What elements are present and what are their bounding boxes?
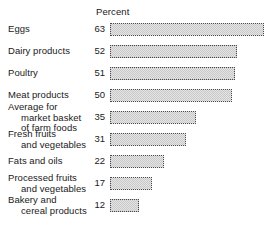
bar-value-label: 35 bbox=[78, 112, 105, 123]
category-label: Processed fruitsand vegetables bbox=[8, 173, 86, 194]
category-label-line: Eggs bbox=[8, 24, 30, 35]
category-label-line: cereal products bbox=[8, 206, 87, 217]
category-label: Eggs bbox=[8, 24, 30, 35]
category-label-line: Bakery and bbox=[8, 195, 87, 206]
bar-row: Fresh fruitsand vegetables31 bbox=[0, 131, 275, 153]
bar-row: Dairy products52 bbox=[0, 43, 275, 65]
bar-value-label: 22 bbox=[78, 156, 105, 167]
category-label: Bakery andcereal products bbox=[8, 195, 87, 216]
bar-chart: Percent Eggs63Dairy products52Poultry51M… bbox=[0, 0, 275, 227]
bar-value-label: 50 bbox=[78, 90, 105, 101]
bar-value-label: 17 bbox=[78, 178, 105, 189]
bar bbox=[110, 23, 264, 36]
bar bbox=[110, 177, 152, 190]
bar bbox=[110, 45, 237, 58]
bar bbox=[110, 199, 139, 212]
bar bbox=[110, 133, 186, 146]
bar bbox=[110, 111, 196, 124]
category-label-line: and vegetables bbox=[8, 184, 86, 195]
bar-row: Bakery andcereal products12 bbox=[0, 197, 275, 219]
bar bbox=[110, 67, 235, 80]
bar-value-label: 12 bbox=[78, 200, 105, 211]
category-label-line: Meat products bbox=[8, 90, 69, 101]
bar-value-label: 63 bbox=[78, 24, 105, 35]
bar bbox=[110, 89, 232, 102]
axis-header-percent: Percent bbox=[96, 6, 129, 17]
category-label-line: and vegetables bbox=[8, 140, 86, 151]
bar-rows: Eggs63Dairy products52Poultry51Meat prod… bbox=[0, 21, 275, 219]
category-label-line: Dairy products bbox=[8, 46, 70, 57]
category-label-line: Average for bbox=[8, 102, 81, 113]
category-label: Meat products bbox=[8, 90, 69, 101]
category-label: Dairy products bbox=[8, 46, 70, 57]
bar-row: Poultry51 bbox=[0, 65, 275, 87]
category-label-line: Processed fruits bbox=[8, 173, 86, 184]
bar-value-label: 31 bbox=[78, 134, 105, 145]
category-label: Fats and oils bbox=[8, 156, 63, 167]
bar-value-label: 52 bbox=[78, 46, 105, 57]
category-label: Fresh fruitsand vegetables bbox=[8, 129, 86, 150]
category-label-line: Fresh fruits bbox=[8, 129, 86, 140]
category-label: Poultry bbox=[8, 68, 38, 79]
category-label-line: Poultry bbox=[8, 68, 38, 79]
category-label-line: Fats and oils bbox=[8, 156, 63, 167]
bar-value-label: 51 bbox=[78, 68, 105, 79]
bar-row: Eggs63 bbox=[0, 21, 275, 43]
bar bbox=[110, 155, 164, 168]
